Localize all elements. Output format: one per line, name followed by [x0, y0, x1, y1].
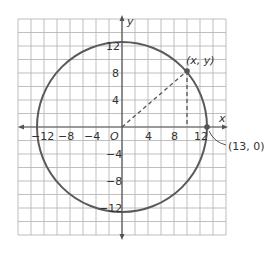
point-x-y	[184, 68, 190, 74]
x-tick-4: 4	[145, 130, 152, 143]
y-tick-8: 8	[112, 67, 119, 80]
callout-leader-line	[209, 131, 226, 145]
x-tick-12: 12	[194, 130, 208, 143]
x-tick-neg8: −8	[58, 130, 74, 143]
y-axis-up-arrow-icon	[120, 15, 125, 21]
point-13-0	[204, 124, 210, 130]
x-tick-neg12: −12	[31, 130, 54, 143]
y-axis-down-arrow-icon	[120, 234, 125, 240]
coordinate-plane-svg: y x O −12 −8 −4 4 8 12 12 8 4 −4 −8 −12 …	[0, 0, 276, 253]
y-tick-neg12: −12	[99, 202, 122, 215]
axes	[18, 15, 228, 240]
x-axis-left-arrow-icon	[18, 125, 24, 130]
x-axis-right-arrow-icon	[222, 125, 228, 130]
x-tick-neg4: −4	[84, 130, 100, 143]
point-13-0-label: (13, 0)	[228, 140, 265, 153]
y-tick-4: 4	[112, 94, 119, 107]
point-x-y-label: (x, y)	[186, 54, 215, 67]
coordinate-plane-figure: y x O −12 −8 −4 4 8 12 12 8 4 −4 −8 −12 …	[0, 0, 276, 253]
origin-label: O	[110, 130, 119, 143]
y-tick-neg8: −8	[106, 175, 122, 188]
x-axis-label: x	[218, 112, 226, 125]
radius-dashed-line	[122, 71, 187, 127]
y-tick-neg4: −4	[106, 148, 122, 161]
y-tick-12: 12	[106, 40, 120, 53]
x-tick-8: 8	[171, 130, 178, 143]
y-axis-label: y	[126, 15, 134, 28]
